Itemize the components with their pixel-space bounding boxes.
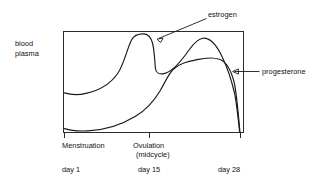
y-axis-label-line2: plasma xyxy=(15,49,40,58)
progesterone-label: progesterone xyxy=(262,67,306,76)
y-axis-label-line1: blood xyxy=(15,39,33,48)
x-label-midcycle: (midcycle) xyxy=(136,150,170,159)
x-label-day-1: day 1 xyxy=(62,165,80,174)
x-label-day-28: day 28 xyxy=(218,165,240,174)
figure-page: blood plasma estrogen progesterone Menst… xyxy=(0,0,322,181)
estrogen-leader-line xyxy=(159,19,207,39)
estrogen-leader-arrowhead xyxy=(157,38,163,43)
progesterone-curve xyxy=(65,58,240,132)
x-label-menstruation: Menstruation xyxy=(62,141,105,150)
estrogen-curve xyxy=(65,34,240,132)
x-label-day-15: day 15 xyxy=(138,165,160,174)
x-label-ovulation: Ovulation xyxy=(133,141,164,150)
estrogen-label: estrogen xyxy=(208,10,237,19)
hormone-cycle-diagram: blood plasma estrogen progesterone Menst… xyxy=(0,0,322,181)
